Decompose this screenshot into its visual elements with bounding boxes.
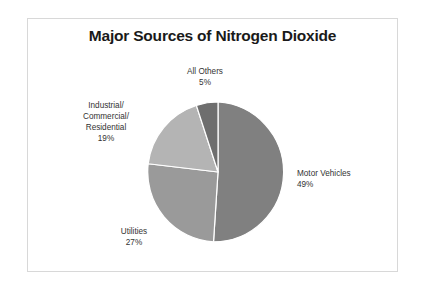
pie-label-utilities: Utilities 27% bbox=[82, 226, 186, 248]
pie-label-industrial-line2: Commercial/ bbox=[83, 112, 129, 121]
page-title: Major Sources of Nitrogen Dioxide bbox=[27, 27, 398, 45]
pie-label-industrial-line3: Residential bbox=[86, 123, 127, 132]
pie-chart-svg bbox=[148, 102, 288, 242]
pie-label-all-others-percent: 5% bbox=[153, 77, 257, 88]
pie-label-utilities-name: Utilities bbox=[121, 227, 147, 236]
pie-label-motor-vehicles-percent: 49% bbox=[297, 179, 401, 190]
pie-label-all-others: All Others 5% bbox=[153, 66, 257, 88]
pie-label-motor-vehicles-name: Motor Vehicles bbox=[297, 169, 351, 178]
chart-screenshot: Major Sources of Nitrogen Dioxide All Ot… bbox=[0, 0, 423, 293]
pie-label-utilities-percent: 27% bbox=[82, 237, 186, 248]
pie-chart bbox=[148, 102, 288, 242]
pie-label-industrial: Industrial/ Commercial/ Residential 19% bbox=[56, 100, 156, 144]
pie-slice-motor-vehicles[interactable] bbox=[214, 102, 284, 242]
pie-label-industrial-percent: 19% bbox=[56, 133, 156, 144]
pie-label-industrial-line1: Industrial/ bbox=[88, 101, 124, 110]
pie-label-motor-vehicles: Motor Vehicles 49% bbox=[297, 168, 401, 190]
pie-label-all-others-name: All Others bbox=[187, 67, 223, 76]
